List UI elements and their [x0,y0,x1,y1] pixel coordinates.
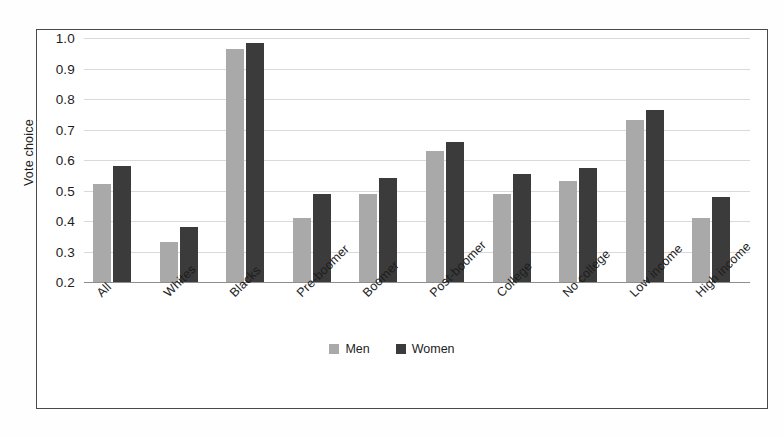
bar-women [246,43,264,282]
bar-men [559,181,577,282]
y-axis-tick-label: 0.3 [56,244,75,259]
bar-men [226,49,244,282]
bar-men [626,120,644,282]
plot-area: 1.00.90.80.70.60.50.40.30.2 AllWhitesBla… [84,38,750,282]
y-axis-tick-label: 0.5 [56,183,75,198]
bar-group [350,38,417,282]
y-axis-tick-label: 0.8 [56,92,75,107]
y-axis-tick-label: 0.4 [56,214,75,229]
y-axis-tick-label: 0.2 [56,275,75,290]
chart-figure: Vote choice 1.00.90.80.70.60.50.40.30.2 … [0,0,784,436]
chart-legend: MenWomen [0,342,784,356]
bar-men [426,151,444,282]
bar-group [550,38,617,282]
legend-swatch-icon [396,344,406,354]
y-axis-tick-label: 1.0 [56,31,75,46]
bar-group [217,38,284,282]
legend-label: Men [345,342,369,356]
y-axis-label: Vote choice [22,119,36,186]
bar-men [293,218,311,282]
legend-item-women: Women [396,342,455,356]
bar-men [93,184,111,282]
legend-label: Women [412,342,455,356]
y-axis-tick-label: 0.9 [56,61,75,76]
bar-men [692,218,710,282]
bar-men [359,194,377,282]
bar-group [484,38,551,282]
y-axis-tick-label: 0.7 [56,122,75,137]
bar-group [84,38,151,282]
y-axis-tick-label: 0.6 [56,153,75,168]
legend-swatch-icon [329,344,339,354]
bar-men [493,194,511,282]
bar-series-container [84,38,750,282]
legend-item-men: Men [329,342,369,356]
bar-group [151,38,218,282]
bar-women [113,166,131,282]
